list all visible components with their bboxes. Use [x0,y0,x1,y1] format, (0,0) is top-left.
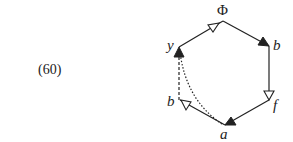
node-label-b-upper: b [273,38,281,53]
node-label-phi: Φ [217,3,228,18]
edge-a-y-dotted [180,52,222,124]
filled-arrow-icon [258,37,269,46]
node-label-a: a [220,127,228,142]
open-arrow-icon [181,100,191,110]
node-label-y: y [167,38,174,53]
filled-arrow-icon [174,47,184,57]
node-label-f: f [273,98,277,113]
filled-arrow-icon [225,117,236,125]
hexagon-diagram [0,0,293,142]
open-arrow-icon [208,23,219,32]
node-label-b-lower: b [167,94,175,109]
